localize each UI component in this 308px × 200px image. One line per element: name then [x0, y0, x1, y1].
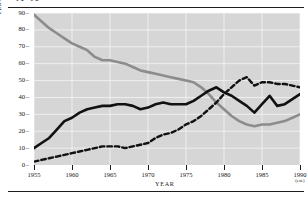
- x-tickmark-1975: [186, 165, 187, 170]
- x-tick-note: (est.): [284, 178, 308, 184]
- x-tickmark-1960: [72, 165, 73, 170]
- y-tick-0: 0–: [10, 161, 30, 168]
- x-tickmark-1965: [110, 165, 111, 170]
- chart-figure: A A PERCENTAGE OF MARKET SHARE 0–10–20–3…: [0, 0, 308, 200]
- x-tickmark-1970: [148, 165, 149, 170]
- declining-gray-series: [34, 15, 300, 126]
- y-tick-10: 10–: [10, 144, 30, 151]
- x-tick-1960: 1960: [56, 171, 88, 178]
- y-tick-20: 20–: [10, 127, 30, 134]
- x-tick-1965: 1965: [94, 171, 126, 178]
- y-tick-30: 30–: [10, 110, 30, 117]
- clipped-title-text: A A: [16, 0, 41, 3]
- x-tick-1970: 1970: [132, 171, 164, 178]
- x-tickmark-1985: [262, 165, 263, 170]
- x-axis-label: YEAR: [155, 180, 175, 187]
- x-tickmark-1980: [224, 165, 225, 170]
- y-tick-50: 50–: [10, 76, 30, 83]
- clipped-title-strip: A A: [0, 0, 308, 7]
- y-tick-60: 60–: [10, 59, 30, 66]
- y-axis-label: PERCENTAGE OF MARKET SHARE: [0, 0, 2, 14]
- x-tick-1990: 1990(est.): [284, 171, 308, 184]
- x-tickmark-1990: [300, 165, 301, 170]
- rising-black-series: [34, 87, 300, 148]
- x-tickmark-1955: [34, 165, 35, 170]
- x-tick-1975: 1975: [170, 171, 202, 178]
- x-tick-1955: 1955: [18, 171, 50, 178]
- top-rule: [8, 7, 304, 8]
- y-tick-40: 40–: [10, 93, 30, 100]
- y-tick-90: 90–: [10, 9, 30, 16]
- plot-area: [34, 13, 300, 165]
- y-tick-70: 70–: [10, 42, 30, 49]
- y-tick-80: 80–: [10, 25, 30, 32]
- x-tick-1985: 1985: [246, 171, 278, 178]
- rising-dashed-series: [34, 77, 300, 161]
- x-tick-1980: 1980: [208, 171, 240, 178]
- bottom-rule: [8, 191, 304, 192]
